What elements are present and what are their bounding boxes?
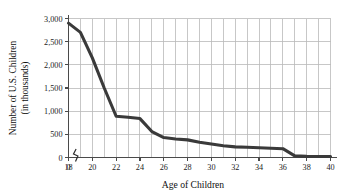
axis-lines xyxy=(69,15,337,158)
x-axis-break-icon xyxy=(74,149,78,162)
y-tick-label-2000: 2,000 xyxy=(44,61,62,70)
y-tick-label-3000: 3,000 xyxy=(44,15,62,24)
x-axis-origin-label: 0 xyxy=(66,163,70,172)
x-axis-title: Age of Children xyxy=(162,179,225,190)
y-tick-label-2500: 2,500 xyxy=(44,38,62,47)
line-chart: 05001,0001,5002,0002,5003,000 1820222426… xyxy=(0,0,347,193)
x-tick-label-34: 34 xyxy=(255,163,263,172)
y-axis-tick-labels: 05001,0001,5002,0002,5003,000 xyxy=(44,15,62,163)
x-tick-label-26: 26 xyxy=(160,163,168,172)
y-axis-title-line-2: (in thousands) xyxy=(20,62,31,115)
chart-container: 05001,0001,5002,0002,5003,000 1820222426… xyxy=(0,0,347,193)
x-tick-label-36: 36 xyxy=(279,163,287,172)
x-tick-label-40: 40 xyxy=(326,163,334,172)
y-tick-label-1500: 1,500 xyxy=(44,84,62,93)
y-tick-label-500: 500 xyxy=(50,130,62,139)
x-tick-label-30: 30 xyxy=(207,163,215,172)
y-tick-label-0: 0 xyxy=(58,154,62,163)
x-tick-label-20: 20 xyxy=(88,163,96,172)
x-origin-tick-label: 0 xyxy=(66,163,70,172)
x-tick-label-24: 24 xyxy=(136,163,144,172)
y-axis-title: Number of U.S. Children (in thousands) xyxy=(8,41,31,136)
y-axis-title-line-1: Number of U.S. Children xyxy=(8,41,18,136)
axis-break-zigzag xyxy=(74,149,78,162)
x-tick-label-28: 28 xyxy=(183,163,191,172)
x-tick-label-38: 38 xyxy=(303,163,311,172)
x-tick-label-22: 22 xyxy=(112,163,120,172)
x-axis-tick-labels: 182022242628303234363840 xyxy=(64,163,334,172)
x-tick-label-32: 32 xyxy=(231,163,239,172)
y-tick-label-1000: 1,000 xyxy=(44,107,62,116)
